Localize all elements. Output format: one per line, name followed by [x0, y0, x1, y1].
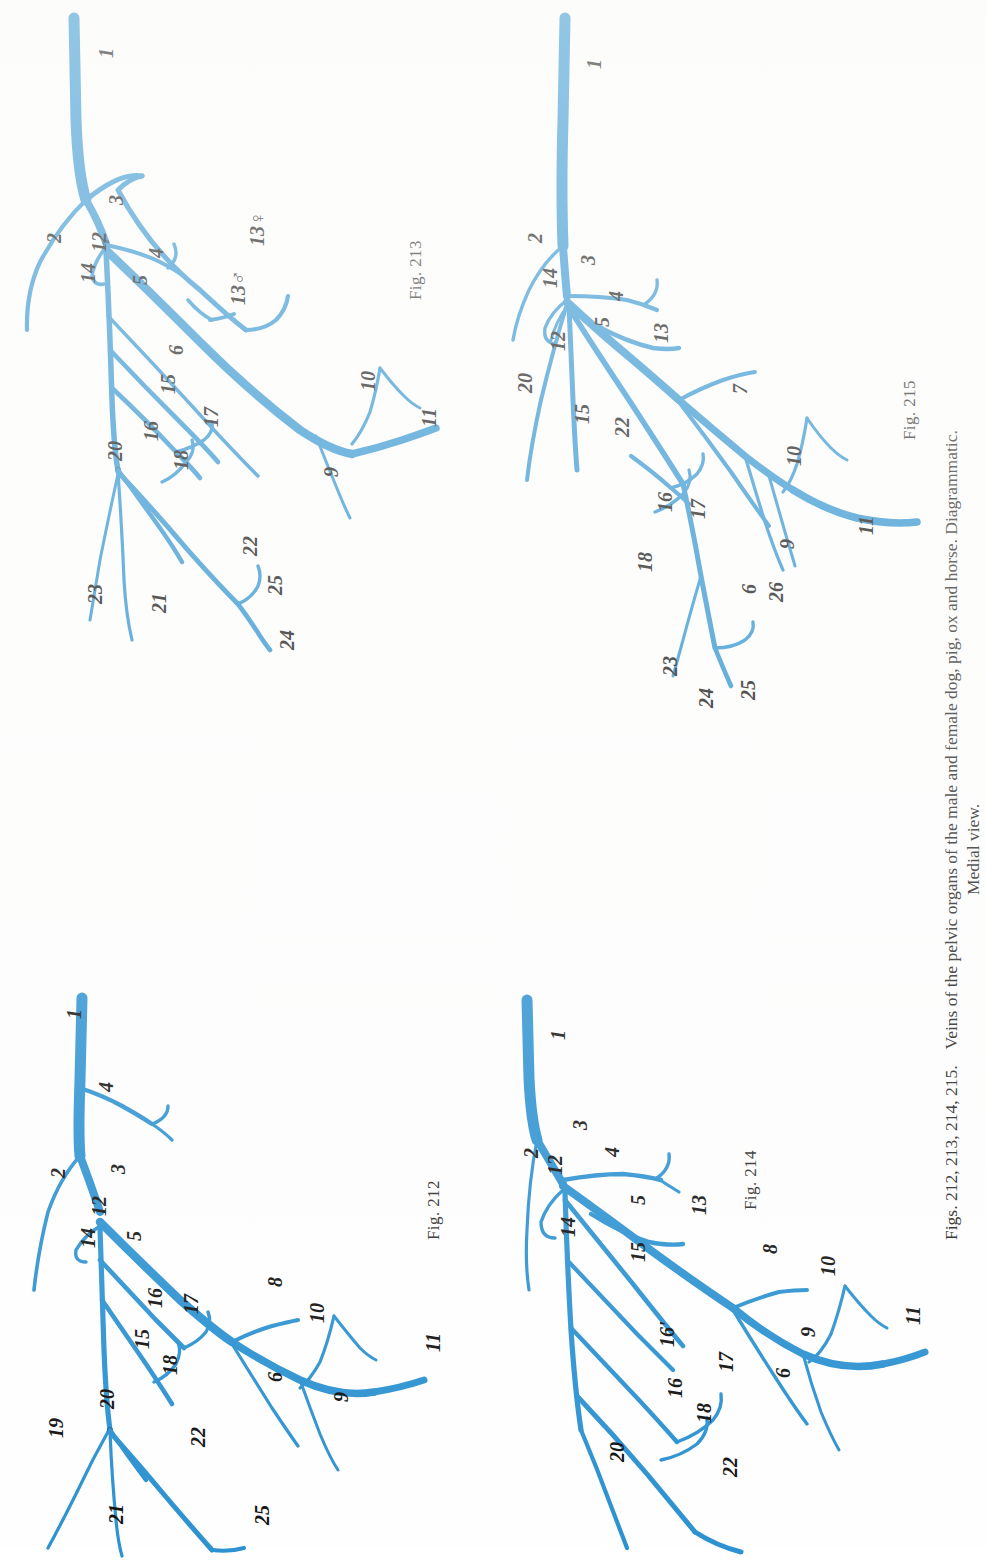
label-212-4: 4 [96, 1082, 116, 1092]
label-212-19: 19 [46, 1418, 66, 1438]
label-212-21: 21 [106, 1504, 126, 1524]
label-212-11: 11 [423, 1333, 443, 1352]
label-212-14: 14 [78, 1228, 98, 1248]
label-213-15: 15 [158, 374, 178, 394]
label-212-20: 20 [97, 1389, 117, 1409]
label-214-17: 17 [716, 1352, 736, 1372]
label-213-21: 21 [149, 593, 169, 613]
label-212-12: 12 [89, 1196, 109, 1216]
label-212-9: 9 [331, 1392, 351, 1402]
label-214-8: 8 [760, 1244, 780, 1254]
figure-212-drawing [0, 960, 493, 1560]
label-213-2: 2 [44, 233, 64, 243]
label-215-7: 7 [730, 384, 750, 394]
label-215-23: 23 [660, 656, 680, 676]
label-212-25: 25 [252, 1505, 272, 1525]
label-213-12: 12 [89, 232, 109, 252]
figure-213-number: Fig. 213 [406, 240, 426, 300]
label-214-9: 9 [798, 1327, 818, 1337]
label-212-8: 8 [265, 1277, 285, 1287]
label-214-2: 2 [521, 1148, 541, 1158]
figure-213: Fig. 213 [0, 0, 493, 774]
label-214-18: 18 [694, 1403, 714, 1423]
figure-215-number: Fig. 215 [900, 380, 920, 440]
label-214-3: 3 [570, 1120, 590, 1130]
label-214-11: 11 [903, 1306, 923, 1325]
label-213-22: 22 [240, 536, 260, 556]
figure-213-drawing [0, 0, 493, 774]
label-215-18: 18 [635, 552, 655, 572]
label-215-22: 22 [612, 417, 632, 437]
label-212-2: 2 [48, 1168, 68, 1178]
label-214-22: 22 [720, 1457, 740, 1477]
label-213-24: 24 [277, 630, 297, 650]
label-215-17: 17 [688, 499, 708, 519]
label-215-9: 9 [777, 539, 797, 549]
label-213-14: 14 [78, 263, 98, 283]
label-215-2: 2 [525, 233, 545, 243]
label-215-1: 1 [584, 59, 604, 69]
label-213-17: 17 [201, 407, 221, 427]
figure-214-number: Fig. 214 [741, 1150, 761, 1210]
label-213-25: 25 [265, 575, 285, 595]
label-215-26: 26 [766, 582, 786, 602]
label-213-4: 4 [146, 248, 166, 258]
label-214-12: 12 [545, 1155, 565, 1175]
label-215-15: 15 [572, 404, 592, 424]
label-212-10: 10 [307, 1303, 327, 1323]
label-213-20: 20 [105, 441, 125, 461]
label-212-18: 18 [160, 1355, 180, 1375]
label-214-15: 15 [628, 1242, 648, 1262]
label-213-3: 3 [106, 195, 126, 205]
label-212-3: 3 [108, 1164, 128, 1174]
label-212-22: 22 [188, 1427, 208, 1447]
label-212-6: 6 [265, 1372, 285, 1382]
label-214-20: 20 [607, 1442, 627, 1462]
label-212-15: 15 [132, 1329, 152, 1349]
plate-caption-medial-view: Medial view. [963, 804, 983, 895]
label-214-6: 6 [773, 1368, 793, 1378]
label-215-3: 3 [578, 255, 598, 265]
label-212-5: 5 [124, 1231, 144, 1241]
label-213-18: 18 [171, 450, 191, 470]
label-213-5: 5 [130, 275, 150, 285]
label-215-14: 14 [540, 268, 560, 288]
label-214-14: 14 [558, 1217, 578, 1237]
figure-212: Fig. 212 [0, 960, 493, 1548]
figure-212-number: Fig. 212 [424, 1180, 444, 1240]
plate-caption-body: Veins of the pelvic organs of the male a… [941, 430, 961, 1049]
label-215-12: 12 [548, 331, 568, 351]
label-213-1: 1 [96, 48, 116, 58]
plate-caption-line-1: Figs. 212, 213, 214, 215.Veins of the pe… [941, 430, 962, 1240]
label-213-13: 13♀ [247, 211, 267, 246]
plate-caption-figs: Figs. 212, 213, 214, 215. [941, 1065, 961, 1240]
label-214-13: 13 [689, 1195, 709, 1215]
label-213-9: 9 [321, 467, 341, 477]
label-213-10: 10 [358, 371, 378, 391]
label-214-4: 4 [602, 1147, 622, 1157]
label-215-5: 5 [592, 317, 612, 327]
label-213-23: 23 [85, 584, 105, 604]
label-215-6: 6 [739, 584, 759, 594]
label-215-16: 16 [655, 492, 675, 512]
label-213-13: 13♂ [228, 270, 248, 305]
label-214-16: 16' [657, 1321, 677, 1347]
label-213-16: 16 [141, 421, 161, 441]
label-215-20: 20 [515, 373, 535, 393]
label-215-13: 13 [651, 323, 671, 343]
label-215-24: 24 [696, 688, 716, 708]
label-215-11: 11 [856, 516, 876, 535]
plate-caption-line-2: Medial view. [963, 804, 984, 895]
label-212-16: 16 [145, 1288, 165, 1308]
label-212-1: 1 [64, 1009, 84, 1019]
label-213-6: 6 [166, 345, 186, 355]
label-215-10: 10 [784, 446, 804, 466]
label-212-17: 17 [181, 1294, 201, 1314]
label-214-1: 1 [548, 1030, 568, 1040]
label-214-10: 10 [818, 1256, 838, 1276]
label-215-4: 4 [606, 291, 626, 301]
label-214-16: 16 [665, 1378, 685, 1398]
label-213-11: 11 [419, 408, 439, 427]
label-214-5: 5 [628, 1195, 648, 1205]
